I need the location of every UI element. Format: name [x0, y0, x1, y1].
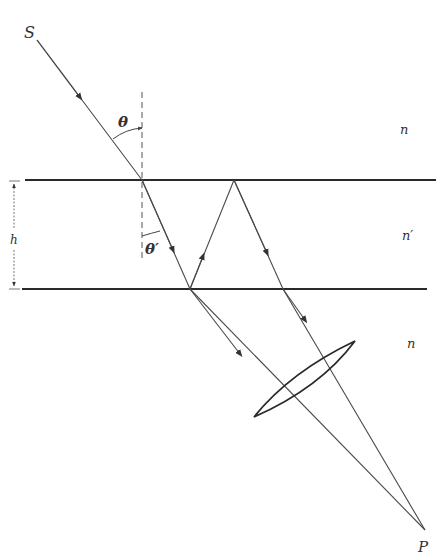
- transmitted-ray-1-arrow: [190, 289, 240, 354]
- image-point-label: P: [417, 538, 429, 555]
- reflected-ray-up-arrow: [190, 256, 203, 289]
- transmitted-ray-2-arrow: [283, 289, 305, 320]
- reflected-ray-down-arrow: [234, 180, 267, 253]
- source-label: S: [24, 23, 35, 42]
- medium-top-label: n: [400, 122, 408, 137]
- optics-diagram: h S θ θ′ n n′ n P: [0, 0, 440, 555]
- theta-arrow-icon: [138, 127, 142, 130]
- medium-bottom-label: n: [407, 336, 415, 351]
- theta-label: θ: [118, 113, 128, 131]
- converging-lens: [254, 341, 355, 417]
- thickness-label: h: [10, 233, 18, 247]
- transmitted-ray-1: [190, 289, 425, 530]
- transmitted-ray-2: [283, 289, 425, 530]
- theta-prime-arc: [142, 231, 160, 236]
- incident-ray-arrow: [37, 40, 80, 97]
- theta-prime-label: θ′: [145, 240, 159, 258]
- medium-slab-label: n′: [402, 228, 413, 243]
